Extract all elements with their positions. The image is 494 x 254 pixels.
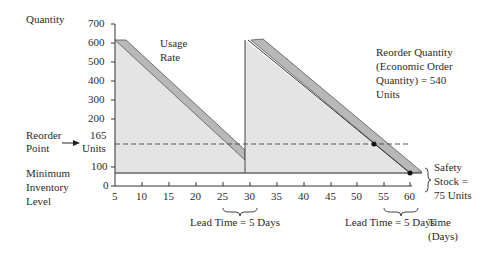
y-axis-title: Quantity xyxy=(26,13,65,26)
usage-rate-label-2: Rate xyxy=(160,51,180,64)
min-inventory-label-3: Level xyxy=(26,195,51,208)
x-tick-45: 45 xyxy=(325,190,336,203)
y-ticks xyxy=(111,24,115,186)
x-axis-title-1: Time xyxy=(428,216,451,229)
usage-rate-label-1: Usage xyxy=(160,37,188,50)
lead-time-brace-2 xyxy=(384,208,418,216)
x-tick-35: 35 xyxy=(271,190,282,203)
x-tick-40: 40 xyxy=(298,190,309,203)
y-tick-165: 165 xyxy=(90,129,107,142)
arrow-head-icon xyxy=(73,140,80,146)
x-tick-25: 25 xyxy=(217,190,228,203)
y-tick-500: 500 xyxy=(88,55,105,68)
x-axis-title-2: (Days) xyxy=(428,230,458,243)
reorder-marker xyxy=(372,142,377,147)
y-tick-200: 200 xyxy=(88,112,105,125)
x-tick-30: 30 xyxy=(244,190,255,203)
y-tick-100: 100 xyxy=(91,160,108,173)
min-inventory-label-1: Minimum xyxy=(26,167,70,180)
reorder-quantity-label-3: Quantity) = 540 xyxy=(376,74,446,87)
lead-time-label-2: Lead Time = 5 Days xyxy=(345,216,435,229)
x-tick-15: 15 xyxy=(163,190,174,203)
safety-stock-brace xyxy=(425,168,431,192)
x-tick-50: 50 xyxy=(351,190,362,203)
min-inventory-label-2: Inventory xyxy=(26,181,69,194)
y-tick-600: 600 xyxy=(88,36,105,49)
x-tick-55: 55 xyxy=(378,190,389,203)
x-tick-20: 20 xyxy=(190,190,201,203)
stockout-marker xyxy=(408,171,413,176)
reorder-point-label-1: Reorder xyxy=(26,129,61,142)
y-tick-700: 700 xyxy=(88,17,105,30)
lead-time-label-1: Lead Time = 5 Days xyxy=(190,216,280,229)
y-tick-0: 0 xyxy=(103,179,109,192)
x-ticks xyxy=(142,182,410,186)
safety-stock-label-3: 75 Units xyxy=(434,189,472,202)
safety-stock-label-2: Stock = xyxy=(434,175,468,188)
x-tick-60: 60 xyxy=(404,190,415,203)
lead-time-brace-1 xyxy=(223,208,257,216)
y-tick-300: 300 xyxy=(88,93,105,106)
y-tick-165-units: Units xyxy=(82,142,106,155)
y-tick-400: 400 xyxy=(88,74,105,87)
reorder-point-label-2: Point xyxy=(26,142,49,155)
safety-stock-label-1: Safety xyxy=(434,161,462,174)
reorder-quantity-label-4: Units xyxy=(376,88,400,101)
x-tick-10: 10 xyxy=(136,190,147,203)
x-tick-5: 5 xyxy=(112,190,118,203)
reorder-quantity-label-2: (Economic Order xyxy=(376,60,453,73)
reorder-quantity-label-1: Reorder Quantity xyxy=(376,46,453,59)
